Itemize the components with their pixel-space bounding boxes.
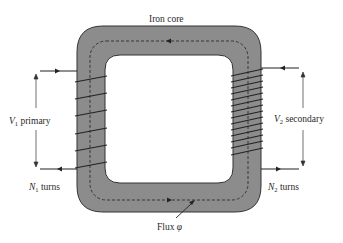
flux-path <box>90 39 248 203</box>
secondary-voltage-label: V2 secondary <box>274 114 324 125</box>
primary-output-arrow-icon <box>57 167 62 172</box>
primary-input-arrow-icon <box>55 69 60 74</box>
secondary-output-arrow-icon <box>276 167 281 172</box>
primary-turns-label: N1 turns <box>28 182 60 193</box>
transformer-diagram: Iron core V1 primary V2 secondary N1 tur… <box>0 0 343 243</box>
primary-voltage-label: V1 primary <box>9 116 51 127</box>
secondary-turns-label: N2 turns <box>267 182 299 193</box>
secondary-input-arrow-icon <box>280 66 285 71</box>
iron-core-label: Iron core <box>149 14 184 24</box>
iron-core <box>77 26 261 212</box>
flux-label: Flux φ <box>157 222 182 232</box>
